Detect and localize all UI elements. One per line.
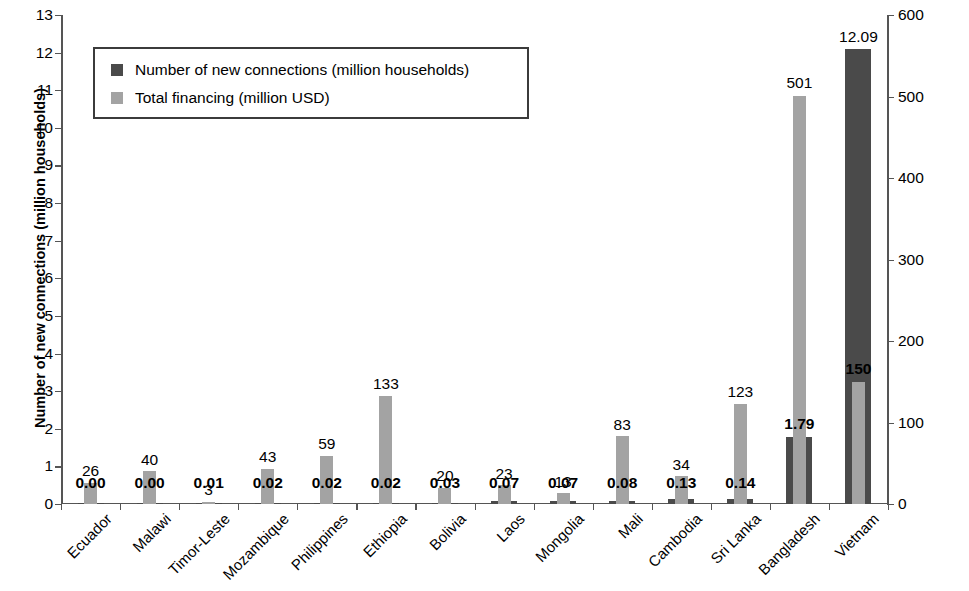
y-axis-left-tick-label: 4 — [44, 346, 53, 362]
y-axis-left-tick-label: 10 — [36, 120, 53, 136]
bar-value-label-financing: 13 — [554, 474, 571, 490]
y-axis-left-tick-label: 3 — [44, 383, 53, 399]
bar-value-label-connections: 1.79 — [784, 416, 814, 432]
y-axis-left-tick-label: 0 — [44, 496, 53, 512]
y-axis-left-tick-labels: 012345678910111213 — [0, 15, 53, 504]
bar-value-label-financing: 133 — [373, 376, 399, 392]
bar-value-label-financing: 40 — [141, 452, 158, 468]
legend-item[interactable]: Number of new connections (million house… — [111, 56, 527, 84]
y-axis-right-tick — [887, 97, 894, 98]
bar-value-label-financing: 501 — [786, 75, 812, 91]
legend-label: Total financing (million USD) — [135, 89, 330, 107]
y-axis-left-tick-label: 12 — [36, 45, 53, 61]
bar-value-label-financing: 43 — [259, 449, 276, 465]
bar-category-bangladesh[interactable]: 1.79501 — [770, 15, 829, 504]
x-axis-label-sri-lanka: Sri Lanka — [707, 510, 764, 567]
bar-value-label-connections: 12.09 — [839, 29, 878, 45]
chart-legend: Number of new connections (million house… — [93, 47, 529, 119]
y-axis-left-tick-label: 1 — [44, 459, 53, 475]
x-axis-label-philippines: Philippines — [288, 510, 351, 573]
bar-value-label-financing: 3 — [204, 482, 213, 498]
y-axis-left-tick-label: 11 — [37, 82, 53, 98]
y-axis-left-tick-label: 7 — [44, 233, 53, 249]
x-axis-label-bangladesh: Bangladesh — [755, 510, 823, 578]
bar-value-label-financing: 34 — [673, 457, 690, 473]
bar-category-cambodia[interactable]: 0.1334 — [652, 15, 711, 504]
dark-square-icon — [111, 64, 123, 76]
y-axis-right-tick-label: 300 — [898, 252, 924, 268]
legend-label: Number of new connections (million house… — [135, 61, 469, 79]
y-axis-right-tick-label: 500 — [898, 89, 924, 105]
bar-value-label-connections: 0.00 — [135, 475, 165, 491]
y-axis-left-tick-label: 5 — [44, 308, 53, 324]
y-axis-right-tick — [887, 341, 894, 342]
bar-category-sri-lanka[interactable]: 0.14123 — [711, 15, 770, 504]
y-axis-right-tick-label: 100 — [898, 415, 924, 431]
x-axis-label-ethiopia: Ethiopia — [360, 510, 410, 560]
bar-value-label-financing: 23 — [495, 466, 512, 482]
bar-value-label-financing: 123 — [727, 384, 753, 400]
y-axis-right-tick-label: 200 — [898, 333, 924, 349]
bar-value-label-connections: 0.08 — [607, 475, 637, 491]
x-axis-label-malawi: Malawi — [129, 510, 174, 555]
bar-category-mali[interactable]: 0.0883 — [593, 15, 652, 504]
y-axis-right-tick — [887, 178, 894, 179]
bar-value-label-financing: 150 — [846, 361, 872, 377]
y-axis-right-tick-label: 600 — [898, 7, 924, 23]
bar-financing[interactable] — [852, 382, 865, 504]
y-axis-right-tick — [887, 423, 894, 424]
light-square-icon — [111, 92, 123, 104]
y-axis-left-tick-label: 2 — [44, 421, 53, 437]
legend-item[interactable]: Total financing (million USD) — [111, 84, 527, 112]
x-axis-label-laos: Laos — [493, 510, 528, 545]
bar-value-label-connections: 0.02 — [312, 475, 342, 491]
bar-value-label-connections: 0.02 — [253, 475, 283, 491]
x-axis-category-labels: EcuadorMalawiTimor-LesteMozambiquePhilip… — [61, 504, 888, 591]
x-axis-label-mongolia: Mongolia — [532, 510, 587, 565]
bar-value-label-financing: 83 — [614, 417, 631, 433]
y-axis-right-tick-label: 0 — [898, 496, 907, 512]
bar-value-label-financing: 59 — [318, 436, 335, 452]
bar-value-label-connections: 0.02 — [371, 475, 401, 491]
x-axis-label-bolivia: Bolivia — [426, 510, 469, 553]
x-axis-label-mali: Mali — [615, 510, 646, 541]
bar-value-label-financing: 20 — [436, 468, 453, 484]
y-axis-right-tick — [887, 15, 894, 16]
y-axis-right-tick-labels: 0100200300400500600 — [898, 15, 960, 504]
x-axis-tick — [888, 503, 889, 510]
y-axis-left-tick-label: 9 — [44, 158, 53, 174]
bar-category-mongolia[interactable]: 0.0713 — [534, 15, 593, 504]
bar-financing[interactable] — [793, 96, 806, 504]
y-axis-right-tick — [887, 260, 894, 261]
bar-financing[interactable] — [616, 436, 629, 504]
bar-financing[interactable] — [557, 493, 570, 504]
chart-figure: Number of new connections (million house… — [0, 0, 969, 591]
y-axis-left-tick-label: 6 — [44, 271, 53, 287]
x-axis-label-vietnam: Vietnam — [832, 510, 883, 561]
bar-value-label-connections: 0.14 — [725, 475, 755, 491]
y-axis-right-tick-label: 400 — [898, 170, 924, 186]
bar-category-vietnam[interactable]: 12.09150 — [829, 15, 888, 504]
legend-items: Number of new connections (million house… — [95, 49, 527, 112]
y-axis-left-tick-label: 13 — [36, 7, 53, 23]
bar-value-label-connections: 0.13 — [666, 475, 696, 491]
x-axis-label-ecuador: Ecuador — [63, 510, 115, 562]
bar-financing[interactable] — [202, 502, 215, 504]
x-axis-label-cambodia: Cambodia — [645, 510, 705, 570]
bar-value-label-financing: 26 — [82, 463, 99, 479]
y-axis-left-tick-label: 8 — [44, 195, 53, 211]
